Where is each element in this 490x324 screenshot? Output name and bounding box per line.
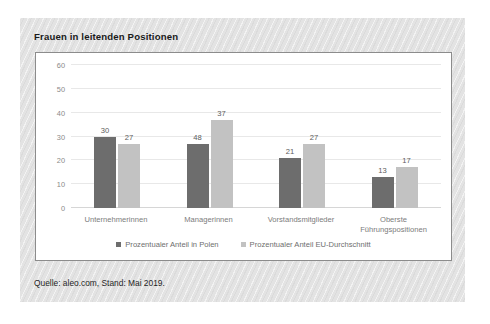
y-axis-tick-label: 60	[57, 61, 65, 70]
x-axis-category-label: ObersteFührungspositionen	[360, 215, 427, 235]
figure-panel: Frauen in leitenden Positionen 010203040…	[20, 18, 465, 302]
bar-value-label: 27	[125, 133, 133, 142]
legend-label: Prozentualer Anteil in Polen	[125, 240, 218, 249]
bar-value-label: 21	[286, 147, 294, 156]
y-axis-tick-label: 0	[61, 204, 65, 213]
bar: 37	[211, 120, 233, 208]
bar: 13	[372, 177, 394, 208]
legend-item: Prozentualer Anteil in Polen	[116, 240, 218, 249]
source-note: Quelle: aleo.com, Stand: Mai 2019.	[34, 278, 165, 288]
x-axis-category-label-line: Unternehmerinnen	[85, 215, 148, 225]
y-axis-tick-label: 20	[57, 156, 65, 165]
legend-swatch-icon	[116, 242, 121, 247]
x-axis-category-label-line: Oberste	[360, 215, 427, 225]
bar-group: 1317	[349, 65, 442, 208]
y-axis-tick-label: 30	[57, 132, 65, 141]
bar-value-label: 27	[310, 133, 318, 142]
bar: 27	[303, 144, 325, 208]
plot-area: 0102030405060 3027483721271317 Unternehm…	[71, 65, 441, 208]
x-axis-category-label-line: Vorstandsmitglieder	[268, 215, 335, 225]
bar-value-label: 17	[402, 156, 410, 165]
x-axis-category-label: Vorstandsmitglieder	[268, 215, 335, 225]
bar-group: 4837	[164, 65, 257, 208]
x-axis-category-label: Managerinnen	[184, 215, 233, 225]
legend-item: Prozentualer Anteil EU-Durchschnitt	[241, 240, 371, 249]
chart-plot-frame: 0102030405060 3027483721271317 Unternehm…	[35, 52, 452, 261]
chart-title: Frauen in leitenden Positionen	[34, 31, 178, 42]
y-axis-tick-label: 40	[57, 108, 65, 117]
bar: 17	[396, 167, 418, 208]
bar: 30	[94, 137, 116, 209]
x-axis-category-label: Unternehmerinnen	[85, 215, 148, 225]
bar-value-label: 37	[217, 109, 225, 118]
bar-value-label: 13	[378, 166, 386, 175]
bar: 48	[187, 144, 209, 208]
y-axis-tick-label: 50	[57, 84, 65, 93]
x-axis-category-label-line: Managerinnen	[184, 215, 233, 225]
bar-value-label: 48	[193, 133, 201, 142]
bar-group: 2127	[256, 65, 349, 208]
bar-value-label: 30	[101, 126, 109, 135]
legend-swatch-icon	[241, 242, 246, 247]
bar: 21	[279, 158, 301, 208]
bar: 27	[118, 144, 140, 208]
chart-legend: Prozentualer Anteil in PolenProzentualer…	[36, 240, 451, 249]
bar-group: 3027	[71, 65, 164, 208]
legend-label: Prozentualer Anteil EU-Durchschnitt	[250, 240, 371, 249]
y-axis-tick-label: 10	[57, 180, 65, 189]
x-axis-category-label-line: Führungspositionen	[360, 225, 427, 235]
